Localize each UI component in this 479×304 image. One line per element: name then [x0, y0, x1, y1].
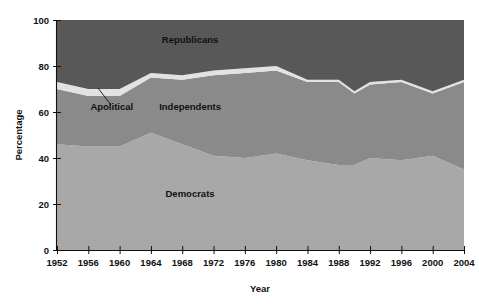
- x-tick-label: 1992: [360, 257, 381, 268]
- y-axis-title: Percentage: [13, 109, 24, 160]
- x-axis-title: Year: [250, 283, 270, 294]
- x-tick-label: 2004: [453, 257, 475, 268]
- x-tick-label: 1952: [46, 257, 67, 268]
- x-tick-label: 1980: [266, 257, 287, 268]
- x-tick-label: 1976: [234, 257, 255, 268]
- x-tick-label: 1956: [78, 257, 99, 268]
- x-tick-label: 1968: [172, 257, 193, 268]
- series-label-democrats: Democrats: [166, 188, 215, 199]
- y-tick-label: 100: [33, 15, 49, 26]
- chart-canvas: 020406080100 195219561960196419681972197…: [0, 0, 479, 304]
- x-tick-label: 1996: [391, 257, 412, 268]
- series-label-republicans: Republicans: [162, 34, 219, 45]
- y-tick-label: 0: [44, 245, 49, 256]
- y-tick-label: 20: [38, 199, 49, 210]
- x-tick-label: 1964: [140, 257, 162, 268]
- x-tick-label: 2000: [422, 257, 443, 268]
- x-tick-label: 1984: [297, 257, 319, 268]
- y-tick-label: 80: [38, 61, 49, 72]
- y-tick-label: 40: [38, 153, 49, 164]
- stacked-area-chart: 020406080100 195219561960196419681972197…: [0, 0, 479, 304]
- y-tick-label: 60: [38, 107, 49, 118]
- series-label-independents: Independents: [159, 101, 221, 112]
- x-tick-label: 1988: [328, 257, 349, 268]
- series-label-apolitical: Apolitical: [90, 101, 133, 112]
- x-tick-label: 1972: [203, 257, 224, 268]
- area-series-group: [57, 20, 464, 250]
- x-tick-label: 1960: [109, 257, 130, 268]
